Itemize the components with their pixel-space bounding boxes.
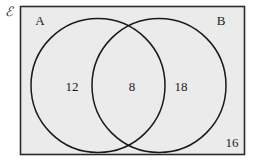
venn-diagram-figure: ℰ A B 12 8 18 16 bbox=[0, 0, 256, 166]
universal-set-symbol: ℰ bbox=[5, 5, 13, 18]
set-b-label: B bbox=[217, 14, 226, 27]
set-a-label: A bbox=[35, 14, 44, 27]
region-count-outside: 16 bbox=[226, 136, 239, 149]
region-count-b-only: 18 bbox=[175, 80, 188, 93]
region-count-a-only: 12 bbox=[66, 80, 79, 93]
region-count-intersection: 8 bbox=[129, 80, 136, 93]
